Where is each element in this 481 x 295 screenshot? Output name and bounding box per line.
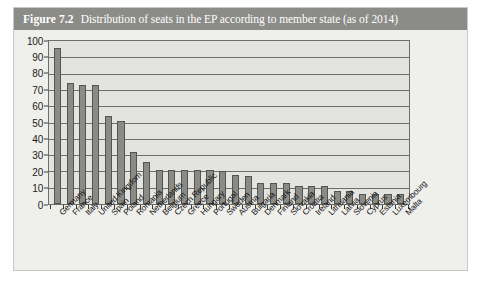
bar-slot — [153, 41, 166, 204]
y-axis: 0102030405060708090100 — [14, 40, 48, 205]
bar-slot — [216, 41, 229, 204]
bar-series — [49, 41, 409, 204]
bar-slot — [242, 41, 255, 204]
bar-slot — [178, 41, 191, 204]
y-axis-tick-label: 60 — [32, 101, 43, 112]
bar-slot — [140, 41, 153, 204]
bar-slot — [318, 41, 331, 204]
bar-slot — [356, 41, 369, 204]
bar-slot — [267, 41, 280, 204]
bar-slot — [344, 41, 357, 204]
bar[interactable] — [92, 85, 99, 204]
y-axis-tick-label: 90 — [32, 51, 43, 62]
bar[interactable] — [67, 83, 74, 204]
bar-slot — [293, 41, 306, 204]
x-axis-tick-mark — [50, 205, 51, 209]
y-axis-tick-label: 100 — [27, 35, 43, 46]
bar-slot — [369, 41, 382, 204]
y-axis-tick-label: 20 — [32, 166, 43, 177]
bar-slot — [64, 41, 77, 204]
bar-slot — [331, 41, 344, 204]
figure-number: Figure 7.2 — [14, 13, 74, 25]
y-axis-tick-label: 10 — [32, 183, 43, 194]
chart-area: 0102030405060708090100 GermanyFranceItal… — [14, 30, 467, 270]
bar-slot — [280, 41, 293, 204]
bar[interactable] — [105, 116, 112, 204]
figure-caption: Distribution of seats in the EP accordin… — [74, 13, 398, 25]
bar-slot — [51, 41, 64, 204]
bar-slot — [255, 41, 268, 204]
x-axis-labels: GermanyFranceItalyUnited KingdomSpainPol… — [48, 210, 410, 270]
bar-slot — [394, 41, 407, 204]
plot-area — [48, 40, 410, 205]
y-axis-tick-label: 0 — [38, 199, 43, 210]
y-axis-tick-label: 30 — [32, 150, 43, 161]
figure-title-bar: Figure 7.2 Distribution of seats in the … — [14, 8, 467, 30]
bar-slot — [89, 41, 102, 204]
bar-slot — [229, 41, 242, 204]
bar-slot — [305, 41, 318, 204]
y-axis-tick-label: 50 — [32, 117, 43, 128]
bar[interactable] — [54, 48, 61, 204]
bar-slot — [102, 41, 115, 204]
bar-slot — [76, 41, 89, 204]
y-axis-tick-label: 80 — [32, 68, 43, 79]
figure-container: Figure 7.2 Distribution of seats in the … — [14, 8, 467, 270]
y-axis-tick-label: 70 — [32, 84, 43, 95]
bar-slot — [382, 41, 395, 204]
y-axis-tick-label: 40 — [32, 133, 43, 144]
